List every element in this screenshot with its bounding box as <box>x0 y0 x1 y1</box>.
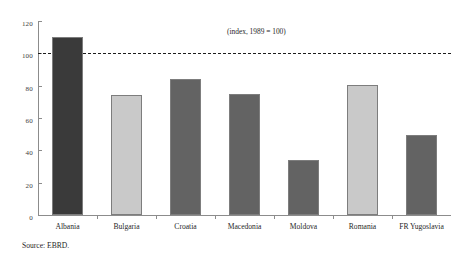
x-axis-label-fr-yugoslavia: FR Yugoslavia <box>399 222 444 231</box>
y-axis-tick-label: 0 <box>29 214 38 222</box>
y-axis-tick: 20 <box>26 174 38 192</box>
x-axis-tick-mark <box>97 215 98 219</box>
y-axis-tick-label: 20 <box>26 182 38 190</box>
bar-albania <box>52 37 83 215</box>
x-axis-tick-mark <box>156 215 157 219</box>
bar-croatia <box>170 79 201 215</box>
x-axis-line <box>38 215 451 216</box>
bar-bulgaria <box>111 95 142 215</box>
x-axis-tick-mark <box>333 215 334 219</box>
index-annotation: (index, 1989 = 100) <box>227 27 286 36</box>
y-axis-tick-label: 100 <box>22 52 38 60</box>
y-axis-tick: 60 <box>26 109 38 127</box>
bar-series <box>38 21 451 215</box>
chart-figure: 020406080100120 AlbaniaBulgariaCroatiaMa… <box>0 0 465 263</box>
y-axis-tick-label: 120 <box>22 20 38 28</box>
y-axis-tick: 80 <box>26 77 38 95</box>
y-axis-tick-mark <box>38 215 42 216</box>
y-axis-tick-label: 40 <box>26 149 38 157</box>
y-axis-tick-label: 60 <box>26 117 38 125</box>
x-axis-label-croatia: Croatia <box>174 222 196 231</box>
y-axis-tick: 100 <box>22 44 38 62</box>
x-axis-label-moldova: Moldova <box>290 222 317 231</box>
y-axis-tick: 0 <box>29 206 38 224</box>
bar-macedonia <box>229 94 260 215</box>
x-axis-tick-mark <box>274 215 275 219</box>
x-axis-label-romania: Romania <box>349 222 376 231</box>
source-note: Source: EBRD. <box>22 241 69 250</box>
x-axis-label-albania: Albania <box>55 222 79 231</box>
bar-moldova <box>288 160 319 215</box>
y-axis-tick: 120 <box>22 12 38 30</box>
y-axis-tick-label: 80 <box>26 85 38 93</box>
x-axis-label-bulgaria: Bulgaria <box>113 222 139 231</box>
x-axis-label-macedonia: Macedonia <box>228 222 262 231</box>
y-axis-tick: 40 <box>26 141 38 159</box>
x-axis-tick-mark <box>392 215 393 219</box>
bar-fr-yugoslavia <box>406 135 437 215</box>
bar-romania <box>347 85 378 215</box>
x-axis-tick-mark <box>215 215 216 219</box>
